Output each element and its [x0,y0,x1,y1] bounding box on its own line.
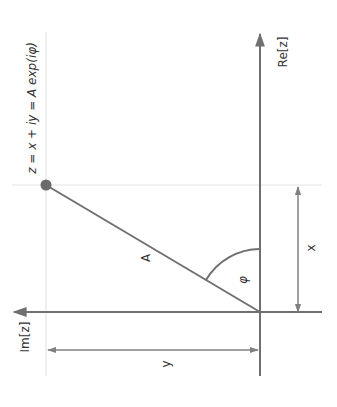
magnitude-label: A [139,254,153,262]
angle-label: φ [236,276,250,284]
magnitude-vector [46,185,260,312]
y-dimension-label: y [159,360,173,367]
x-dimension-label: x [304,244,318,251]
real-axis-label: Re[z] [276,37,290,68]
angle-arc [206,249,260,280]
point-z [41,180,52,191]
formula-label: z = x + iy = A exp(iφ) [25,42,39,174]
imaginary-axis-label: Im[z] [18,322,32,353]
